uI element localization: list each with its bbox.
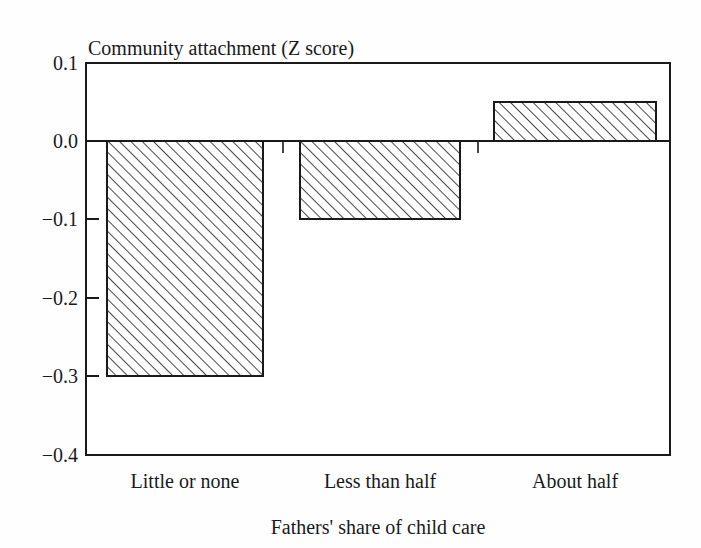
x-axis-title: Fathers' share of child care [271,516,486,538]
y-tick-label-3: −0.2 [42,287,78,309]
chart-canvas: Community attachment (Z score) 0.1 0.0 −… [0,0,701,548]
chart-title: Community attachment (Z score) [88,37,354,60]
x-category-label-1: Less than half [324,470,437,492]
y-tick-label-2: −0.1 [42,208,78,230]
bar-less-than-half[interactable] [300,141,460,219]
bar-chart-figure: Community attachment (Z score) 0.1 0.0 −… [0,0,701,548]
bar-little-or-none[interactable] [107,141,263,376]
x-category-label-0: Little or none [131,470,240,492]
y-tick-label-4: −0.3 [42,365,78,387]
y-tick-label-5: −0.4 [42,444,78,466]
y-tick-label-1: 0.0 [53,130,78,152]
bar-about-half[interactable] [494,102,656,141]
y-tick-label-0: 0.1 [53,52,78,74]
x-category-label-2: About half [532,470,618,492]
